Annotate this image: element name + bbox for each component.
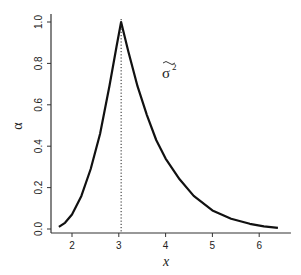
alpha-curve bbox=[59, 22, 278, 228]
y-tick-label: 0.8 bbox=[33, 56, 44, 70]
svg-text:σ: σ bbox=[162, 65, 170, 81]
x-tick-label: 3 bbox=[116, 240, 122, 251]
x-tick-label: 6 bbox=[256, 240, 262, 251]
x-tick-label: 4 bbox=[163, 240, 169, 251]
x-axis-title: x bbox=[162, 254, 170, 269]
x-tick-label: 5 bbox=[210, 240, 216, 251]
y-tick-label: 1.0 bbox=[33, 15, 44, 29]
sigma-annotation: σ 2 bbox=[162, 62, 177, 82]
y-tick-label: 0.2 bbox=[33, 180, 44, 194]
y-tick-label: 0.6 bbox=[33, 97, 44, 111]
y-axis-title: α bbox=[10, 122, 25, 130]
chart: 0.00.20.40.60.81.023456 x α σ 2 bbox=[0, 0, 301, 275]
y-tick-label: 0.0 bbox=[33, 222, 44, 236]
x-tick-label: 2 bbox=[69, 240, 75, 251]
y-tick-label: 0.4 bbox=[33, 139, 44, 153]
